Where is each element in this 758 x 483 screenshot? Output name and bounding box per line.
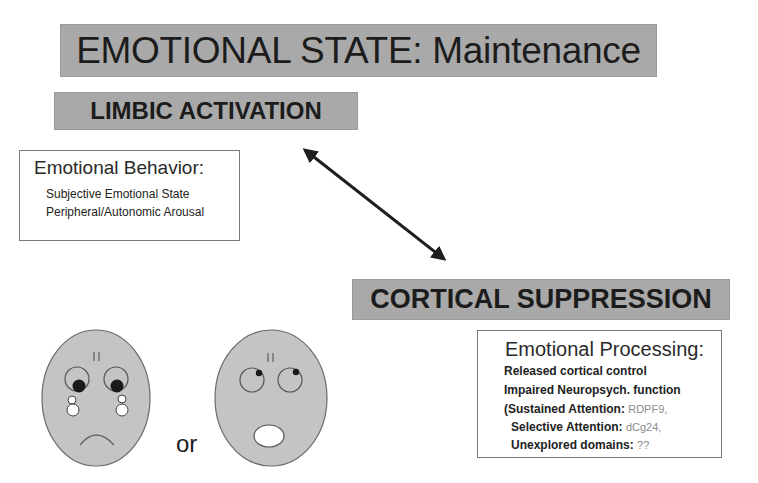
sad-crying-face-icon — [42, 330, 150, 466]
surprised-face-icon — [215, 330, 327, 466]
diagram-graphics — [0, 0, 758, 483]
or-connector-label: or — [176, 430, 197, 458]
double-arrow-icon — [305, 150, 444, 259]
